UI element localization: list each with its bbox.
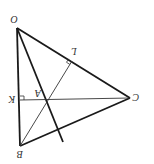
label-L: L <box>71 46 78 57</box>
side-OC <box>17 28 130 98</box>
label-C: C <box>132 92 139 103</box>
label-A: A <box>34 88 42 99</box>
side-OB <box>17 28 20 146</box>
label-O: O <box>10 14 17 25</box>
line-OA-extended <box>17 28 63 142</box>
right-angle-mark-K <box>20 96 24 100</box>
side-BC <box>20 98 130 146</box>
label-B: B <box>17 149 23 160</box>
triangle-diagram: O B C A K L <box>0 0 154 164</box>
label-K: K <box>7 94 16 105</box>
altitude-BL <box>20 61 72 146</box>
